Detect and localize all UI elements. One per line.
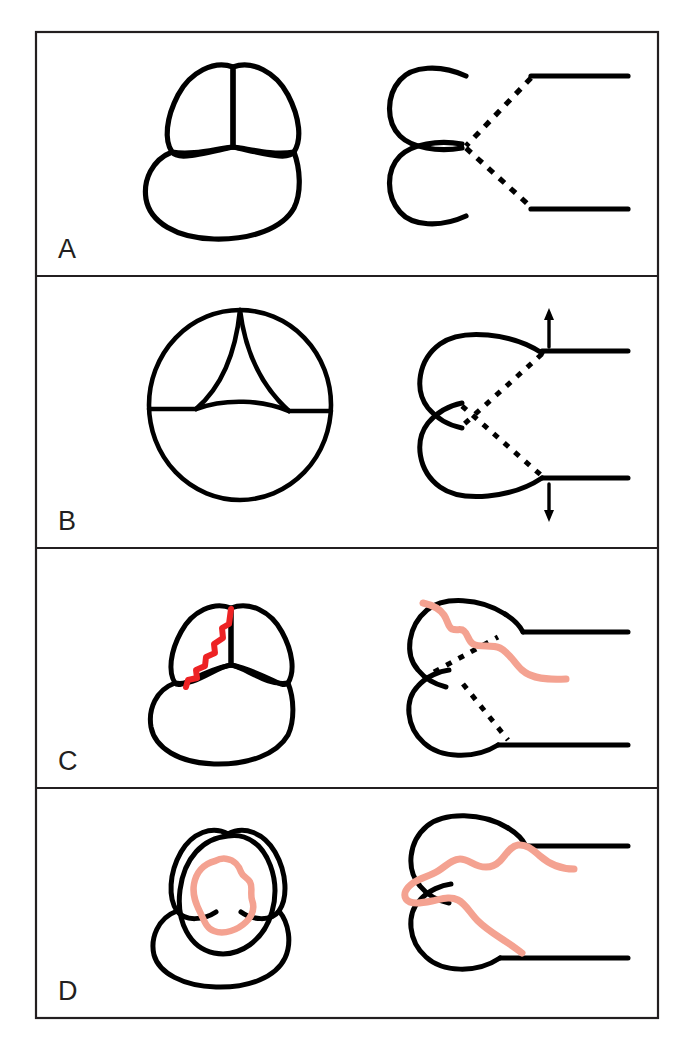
aortic-valve-figure: A (0, 0, 696, 1050)
panel-label-a: A (58, 234, 76, 264)
figure-background (0, 0, 696, 1050)
figure-root: A (0, 0, 696, 1050)
panel-label-c: C (58, 746, 78, 776)
panel-label-d: D (58, 976, 78, 1006)
panel-label-b: B (58, 506, 76, 536)
